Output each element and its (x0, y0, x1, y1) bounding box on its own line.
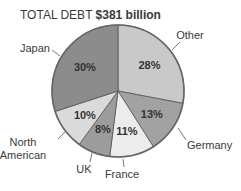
slice-percent-label: 10% (74, 109, 96, 121)
leader-line (123, 159, 124, 167)
leader-line (178, 128, 186, 140)
slice-percent-label: 13% (141, 108, 163, 120)
slice-percent-label: 11% (116, 125, 138, 137)
slice-name-label: UK (76, 163, 92, 175)
slice-percent-label: 30% (74, 61, 96, 73)
leader-line (90, 153, 92, 162)
leader-line (52, 50, 60, 56)
slice-name-label: Japan (20, 42, 50, 54)
leader-line (172, 42, 180, 50)
slice-name-label: Other (176, 29, 204, 41)
slice-name-label: France (105, 168, 139, 180)
slice-name-label: Germany (187, 139, 233, 151)
slice-percent-label: 28% (139, 59, 161, 71)
leader-line (58, 131, 66, 139)
slice-name-label: NorthAmerican (0, 136, 46, 161)
pie-chart: 28%13%11%8%10%30%OtherGermanyFranceUKNor… (0, 0, 241, 191)
slice-percent-label: 8% (95, 123, 111, 135)
